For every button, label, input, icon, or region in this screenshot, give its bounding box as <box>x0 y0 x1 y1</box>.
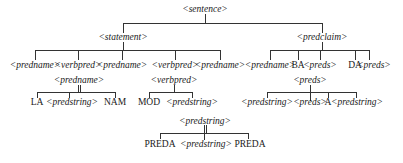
node-predclaim: <predclaim> <box>297 32 348 43</box>
node-statement-child-verbpred-1: <verbpred> <box>55 60 102 71</box>
node-predname-root: <predname> <box>54 75 104 86</box>
node-predclaim-child-preds-2: <preds> <box>357 60 391 71</box>
node-predclaim-child-predname: <predname> <box>245 60 295 71</box>
node-predstring-preda-1: PREDA <box>144 139 175 150</box>
node-preds-root: <preds> <box>293 75 327 86</box>
node-verbpred-mod: MOD <box>138 97 160 108</box>
node-predname-nam: NAM <box>104 97 126 108</box>
node-preds-predstring-2: <predstring> <box>331 97 383 108</box>
node-statement-child-verbpred-2: <verbpred> <box>152 60 199 71</box>
node-predname-predstring: <predstring> <box>46 97 98 108</box>
node-statement: <statement> <box>98 32 147 43</box>
parse-tree-diagram: <sentence> <statement> <predclaim> <pred… <box>0 0 403 163</box>
node-predstring-predstring: <predstring> <box>180 139 232 150</box>
node-sentence: <sentence> <box>182 4 228 15</box>
node-predname-la: LA <box>31 97 44 108</box>
node-verbpred-root: <verbpred> <box>151 75 198 86</box>
node-preds-preds: <preds> <box>293 97 327 108</box>
node-statement-child-predname-3: <predname> <box>195 60 245 71</box>
node-preds-predstring-1: <predstring> <box>241 97 293 108</box>
node-predstring-root: <predstring> <box>179 116 231 127</box>
node-verbpred-predstring: <predstring> <box>166 97 218 108</box>
node-statement-child-predname-2: <predname> <box>97 60 147 71</box>
node-predstring-preda-2: PREDA <box>234 139 265 150</box>
node-predclaim-child-preds-1: <preds> <box>303 60 337 71</box>
node-statement-child-predname-1: <predname> <box>10 60 60 71</box>
